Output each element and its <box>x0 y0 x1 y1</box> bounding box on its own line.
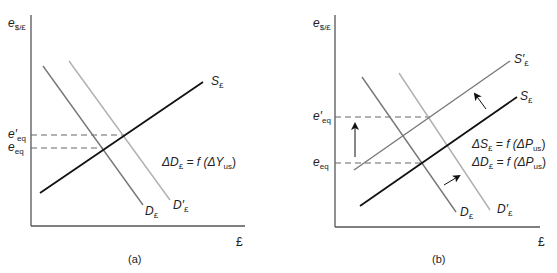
curve-label-supply-b: S£ <box>520 90 532 102</box>
y-axis-label-b: e$/£ <box>313 17 331 29</box>
level-label-e-eq-b: eeq <box>313 156 329 168</box>
demand-prime-curve-a <box>69 61 170 200</box>
panel-a <box>31 15 245 226</box>
caption-a: (a) <box>128 254 141 265</box>
level-label-e-eq-prime-a: e′eq <box>8 128 26 140</box>
demand-curve-b <box>362 77 456 212</box>
x-axis-label-b: £ <box>538 236 545 248</box>
level-label-e-eq-prime-b: e′eq <box>313 110 331 122</box>
demand-shift-arrow-icon <box>444 176 459 185</box>
curve-label-supply-a: S£ <box>211 75 223 87</box>
supply-prime-curve-b <box>354 61 510 170</box>
annotation-supply-price-b: ΔS£ = f (ΔPus) <box>472 138 545 150</box>
supply-curve-a <box>40 82 203 193</box>
curve-label-supply-prime-b: S′£ <box>514 53 529 65</box>
supply-curve-b <box>360 97 517 206</box>
x-axis-label-a: £ <box>236 236 243 248</box>
y-axis-label-a: e$/£ <box>8 17 26 29</box>
panel-b <box>335 15 540 227</box>
curve-label-demand-prime-a: D′£ <box>173 199 188 211</box>
annotation-demand-income-a: ΔD£ = f (ΔYus) <box>162 156 236 168</box>
curve-label-demand-b: D£ <box>460 206 473 218</box>
curve-label-demand-prime-b: D′£ <box>497 203 512 215</box>
annotation-demand-price-b: ΔD£ = f (ΔPus) <box>472 156 546 168</box>
level-label-e-eq-a: eeq <box>8 141 24 153</box>
curve-label-demand-a: D£ <box>145 205 158 217</box>
demand-curve-a <box>43 66 143 205</box>
caption-b: (b) <box>432 254 445 265</box>
supply-shift-arrow-icon <box>475 94 486 109</box>
